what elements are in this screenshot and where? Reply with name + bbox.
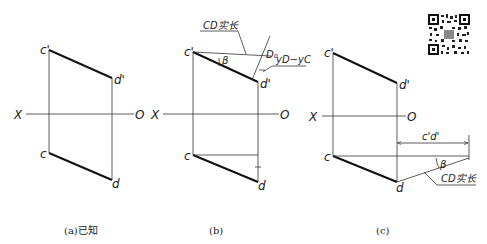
line-c-d — [49, 153, 112, 180]
label-c-prime: c' — [324, 46, 334, 60]
label-d-prime: d' — [399, 78, 410, 92]
true-length-label: CD实长 — [203, 20, 239, 31]
x-axis-label: X — [150, 108, 160, 122]
projection-diagram: X O c' d' c d (a)已知 X O β CD实长 D₀ — [0, 0, 487, 244]
label-c: c — [184, 149, 191, 163]
line-c-d — [333, 156, 397, 182]
dimension-label: c'd' — [422, 131, 439, 142]
offset-label: yD−yC — [275, 54, 311, 65]
line-c-prime-d-prime — [333, 53, 397, 83]
label-d: d — [396, 181, 404, 195]
label-c-prime: c' — [40, 43, 50, 57]
x-axis-label: X — [308, 110, 318, 124]
offset-leader-line — [263, 66, 272, 72]
label-d-prime: d' — [114, 73, 125, 87]
true-length-line — [193, 52, 271, 56]
line-c-prime-d-prime — [49, 50, 112, 78]
label-c: c — [324, 150, 331, 164]
caption-a: (a)已知 — [64, 224, 98, 236]
label-c-prime: c' — [184, 45, 194, 59]
label-d: d — [112, 177, 120, 191]
label-d-prime: d' — [260, 77, 271, 91]
o-axis-label: O — [407, 110, 416, 124]
panel-a: X O c' d' c d (a)已知 — [13, 43, 144, 236]
o-axis-label: O — [135, 108, 144, 122]
angle-beta-label: β — [221, 55, 229, 66]
x-axis-label: X — [13, 108, 23, 122]
caption-c: (c) — [376, 225, 390, 236]
leader-line — [424, 172, 437, 185]
angle-beta-label: β — [439, 159, 447, 170]
leader-line — [238, 31, 246, 54]
o-axis-label: O — [280, 108, 289, 122]
true-length-label: CD实长 — [441, 173, 477, 184]
angle-arc-beta — [436, 158, 439, 168]
label-c: c — [40, 147, 47, 161]
panel-b: X O β CD实长 D₀ yD−yC c' d' c d (b) — [150, 20, 311, 236]
line-c-d — [193, 155, 258, 182]
caption-b: (b) — [209, 225, 223, 236]
label-d: d — [258, 179, 266, 193]
qr-code — [428, 14, 470, 55]
panel-c: X O c'd' β CD实长 c' d' c d (c) — [308, 46, 477, 236]
